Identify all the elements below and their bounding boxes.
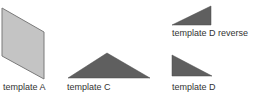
template-d-reverse-shape: [172, 6, 211, 25]
template-c-shape: [68, 53, 150, 78]
template-a-shape: [2, 8, 44, 79]
template-c-label: template C: [67, 82, 111, 92]
template-d-label: template D: [172, 82, 216, 92]
template-a-label: template A: [3, 82, 46, 92]
template-d-shape: [172, 55, 212, 76]
template-d-reverse-label: template D reverse: [172, 28, 248, 38]
